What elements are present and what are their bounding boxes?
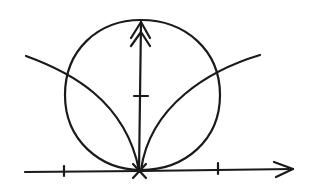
diagram-canvas [0, 0, 317, 192]
cusp-curve-left [26, 56, 139, 170]
cusp-curve-right [141, 55, 260, 170]
